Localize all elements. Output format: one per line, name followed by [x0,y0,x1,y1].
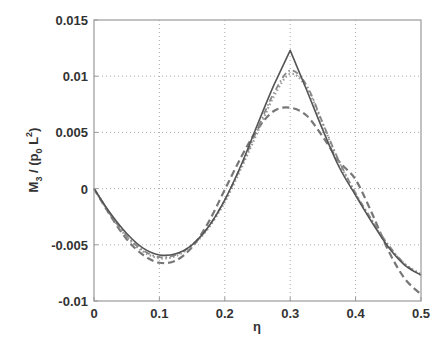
y-axis-ticks: -0.01-0.00500.0050.010.015 [51,13,98,309]
chart: 00.10.20.30.40.5 -0.01-0.00500.0050.010.… [0,0,448,351]
series-solid-line [94,50,421,275]
y-axis-label: M3 / (p0 L2) [24,128,44,193]
x-tick-label: 0.1 [150,306,168,321]
series-dotted-line [94,74,421,274]
series-dash-dot-line [94,70,421,275]
y-tick-label: -0.005 [51,238,88,253]
series-dashed-line [94,107,421,294]
y-tick-label: 0.01 [63,69,88,84]
y-tick-label: 0.005 [55,125,88,140]
y-tick-label: -0.01 [58,294,88,309]
x-tick-label: 0.4 [347,306,366,321]
x-tick-label: 0.5 [412,306,430,321]
x-tick-label: 0.3 [281,306,299,321]
x-axis-label: η [253,319,261,334]
x-tick-label: 0 [90,306,97,321]
grid-lines [94,20,421,301]
data-series [94,50,421,294]
y-tick-label: 0.015 [55,13,88,28]
y-tick-label: 0 [81,182,88,197]
plot-frame [94,20,421,301]
x-tick-label: 0.2 [216,306,234,321]
